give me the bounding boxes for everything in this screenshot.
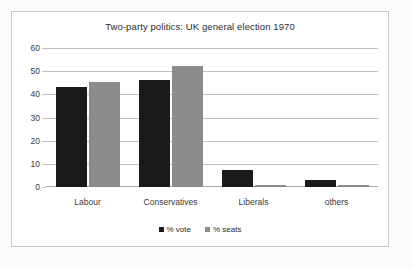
x-axis-category-label: Conservatives [129,197,212,207]
bar-group: Liberals [212,48,295,187]
bar-group: Labour [46,48,129,187]
x-axis-category-label: others [295,197,378,207]
bar-vote [56,87,87,187]
plot-area: 0102030405060LabourConservativesLiberals… [46,48,378,187]
y-axis-tick-label: 0 [35,182,40,192]
x-axis-category-label: Liberals [212,197,295,207]
bar-vote [139,80,170,187]
bar-seats [89,82,120,187]
bar-group: others [295,48,378,187]
legend-item-vote: % vote [159,225,191,234]
legend-label-seats: % seats [213,225,241,234]
x-axis-category-label: Labour [46,197,129,207]
y-axis-tick-label: 30 [31,113,40,123]
y-axis-tick-label: 10 [31,159,40,169]
chart-page: Two-party politics: UK general election … [0,0,413,269]
bar-vote [222,170,253,187]
bar-group: Conservatives [129,48,212,187]
y-axis-tick-label: 50 [31,66,40,76]
bar-seats [338,185,369,187]
y-axis-tick-label: 40 [31,89,40,99]
bar-seats [255,185,286,187]
chart-title: Two-party politics: UK general election … [12,21,388,32]
legend-label-vote: % vote [167,225,191,234]
chart-legend: % vote % seats [12,225,388,234]
y-axis-tick-label: 60 [31,43,40,53]
bar-vote [305,180,336,187]
legend-swatch-seats-icon [205,227,210,232]
y-axis-tick-label: 20 [31,136,40,146]
legend-item-seats: % seats [205,225,241,234]
legend-swatch-vote-icon [159,227,164,232]
y-axis-tick [42,187,46,188]
chart-frame: Two-party politics: UK general election … [11,11,389,247]
bar-seats [172,66,203,187]
